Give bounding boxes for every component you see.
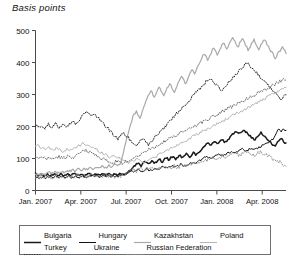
legend-swatch-icon xyxy=(134,232,151,239)
x-tick-label: Apr. 2008 xyxy=(246,197,279,206)
y-tick-label: 300 xyxy=(16,91,30,100)
legend-label: Hungary xyxy=(99,231,127,240)
legend-label: Bulgaria xyxy=(44,231,72,240)
legend-swatch-icon xyxy=(24,232,41,239)
legend-entry-poland[interactable]: Poland xyxy=(200,231,243,240)
legend-row-secondary: TurkeyUkraineRussian Federation xyxy=(24,241,266,253)
y-tick-label: 100 xyxy=(16,155,30,164)
y-axis: 0100200300400500 xyxy=(16,27,35,196)
legend-row-primary: BulgariaHungaryKazakhstanPoland xyxy=(24,229,266,241)
legend-label: Poland xyxy=(220,231,243,240)
x-axis: Jan. 2007Apr. 2007Jul. 2007Oct. 2007Jan.… xyxy=(19,191,286,207)
legend-swatch-icon xyxy=(74,244,91,251)
x-tick-label: Jan. 2008 xyxy=(200,197,233,206)
series-lines xyxy=(36,38,287,179)
plot-area: 0100200300400500 Jan. 2007Apr. 2007Jul. … xyxy=(0,0,290,225)
legend-swatch-icon xyxy=(200,232,217,239)
y-tick-label: 200 xyxy=(16,123,30,132)
series-line-russian-federation xyxy=(36,151,287,179)
legend-label: Turkey xyxy=(44,243,67,252)
legend-entry-hungary[interactable]: Hungary xyxy=(79,231,127,240)
y-tick-label: 500 xyxy=(16,27,30,36)
legend-entry-ukraine[interactable]: Ukraine xyxy=(74,243,120,252)
y-tick-label: 0 xyxy=(25,187,30,196)
x-tick-label: Apr. 2007 xyxy=(65,197,98,206)
legend-swatch-icon xyxy=(79,232,96,239)
legend-label: Ukraine xyxy=(94,243,120,252)
legend-label: Kazakhstan xyxy=(154,231,193,240)
series-line-hungary xyxy=(36,129,287,179)
legend: BulgariaHungaryKazakhstanPoland TurkeyUk… xyxy=(19,225,271,255)
legend-swatch-icon xyxy=(127,244,144,251)
legend-entry-turkey[interactable]: Turkey xyxy=(24,243,67,252)
y-tick-label: 400 xyxy=(16,59,30,68)
legend-swatch-icon xyxy=(24,244,41,251)
x-tick-label: Oct. 2007 xyxy=(155,197,188,206)
legend-entry-russian-federation[interactable]: Russian Federation xyxy=(127,243,212,252)
legend-entry-kazakhstan[interactable]: Kazakhstan xyxy=(134,231,193,240)
legend-entry-bulgaria[interactable]: Bulgaria xyxy=(24,231,72,240)
x-tick-label: Jul. 2007 xyxy=(111,197,142,206)
basis-points-chart: Basis points 0100200300400500 Jan. 2007A… xyxy=(0,0,290,267)
x-tick-label: Jan. 2007 xyxy=(19,197,52,206)
legend-label: Russian Federation xyxy=(147,243,212,252)
